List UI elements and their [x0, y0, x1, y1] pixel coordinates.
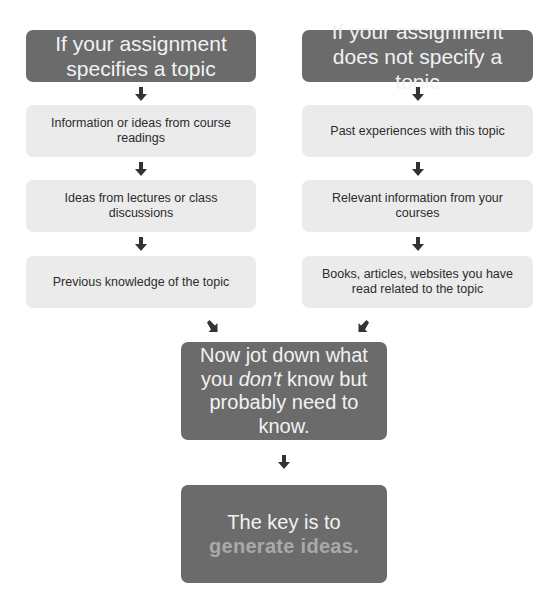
- right-item-3: Books, articles, websites you have read …: [302, 256, 533, 308]
- right-item-3-text: Books, articles, websites you have read …: [320, 267, 515, 297]
- final-box: The key is to generate ideas.: [181, 485, 387, 583]
- left-item-3-text: Previous knowledge of the topic: [53, 275, 230, 290]
- left-item-1: Information or ideas from course reading…: [26, 105, 256, 157]
- arrow-down-icon: [410, 236, 426, 252]
- arrow-down-icon: [410, 161, 426, 177]
- arrow-down-right-icon: [205, 318, 221, 334]
- right-item-1: Past experiences with this topic: [302, 105, 533, 157]
- right-header-text: If your assignment does not specify a to…: [312, 19, 523, 94]
- middle-text-emphasis: don't: [239, 368, 282, 390]
- arrow-down-left-icon: [355, 318, 371, 334]
- middle-box: Now jot down what you don't know but pro…: [181, 342, 387, 440]
- final-box-highlight: generate ideas.: [209, 534, 359, 558]
- left-header-box: If your assignment specifies a topic: [26, 30, 256, 82]
- left-item-1-text: Information or ideas from course reading…: [44, 116, 238, 146]
- arrow-down-icon: [133, 236, 149, 252]
- arrow-down-icon: [410, 86, 426, 102]
- right-item-1-text: Past experiences with this topic: [330, 124, 504, 139]
- left-item-2-text: Ideas from lectures or class discussions: [44, 191, 238, 221]
- arrow-down-icon: [133, 86, 149, 102]
- arrow-down-icon: [276, 454, 292, 470]
- right-header-box: If your assignment does not specify a to…: [302, 30, 533, 82]
- final-box-line1: The key is to: [227, 510, 340, 534]
- middle-box-text: Now jot down what you don't know but pro…: [195, 344, 373, 438]
- right-item-2: Relevant information from your courses: [302, 180, 533, 232]
- left-item-2: Ideas from lectures or class discussions: [26, 180, 256, 232]
- right-item-2-text: Relevant information from your courses: [320, 191, 515, 221]
- left-item-3: Previous knowledge of the topic: [26, 256, 256, 308]
- flowchart: If your assignment specifies a topic Inf…: [0, 0, 557, 609]
- left-header-text: If your assignment specifies a topic: [36, 31, 246, 81]
- arrow-down-icon: [133, 161, 149, 177]
